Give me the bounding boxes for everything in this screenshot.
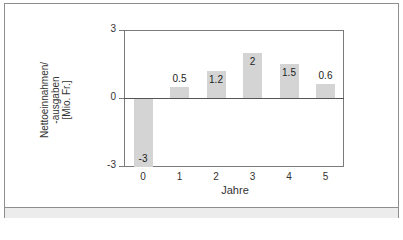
bar-value-label: -3 <box>128 153 158 164</box>
x-tick-label: 3 <box>243 171 263 182</box>
zero-line <box>124 98 344 99</box>
y-tick-label: -3 <box>96 159 116 170</box>
y-axis-title-line-3: [Mio. Fr.] <box>61 50 72 150</box>
x-tick-label: 5 <box>316 171 336 182</box>
x-tick-label: 2 <box>206 171 226 182</box>
x-tick-label: 4 <box>279 171 299 182</box>
y-axis-title-line-2: -ausgaben <box>50 50 61 150</box>
y-axis-title-line-1: Nettoeinnahmen/ <box>39 50 50 150</box>
bar-value-label: 0.5 <box>165 73 195 84</box>
bar-value-label: 2 <box>238 56 268 67</box>
bar-value-label: 0.6 <box>311 70 341 81</box>
y-tick <box>119 98 124 99</box>
bar-value-label: 1.2 <box>201 74 231 85</box>
y-tick <box>119 30 124 31</box>
y-axis-title: Nettoeinnahmen/ -ausgaben [Mio. Fr.] <box>39 50 72 150</box>
bar <box>170 87 189 98</box>
bar <box>316 84 335 98</box>
y-tick <box>119 166 124 167</box>
x-axis-title: Jahre <box>205 184 265 196</box>
y-tick-label: 3 <box>96 23 116 34</box>
y-tick-label: 0 <box>96 91 116 102</box>
caption-band <box>4 207 399 218</box>
bar-value-label: 1.5 <box>274 67 304 78</box>
x-tick-label: 0 <box>133 171 153 182</box>
x-tick-label: 1 <box>170 171 190 182</box>
